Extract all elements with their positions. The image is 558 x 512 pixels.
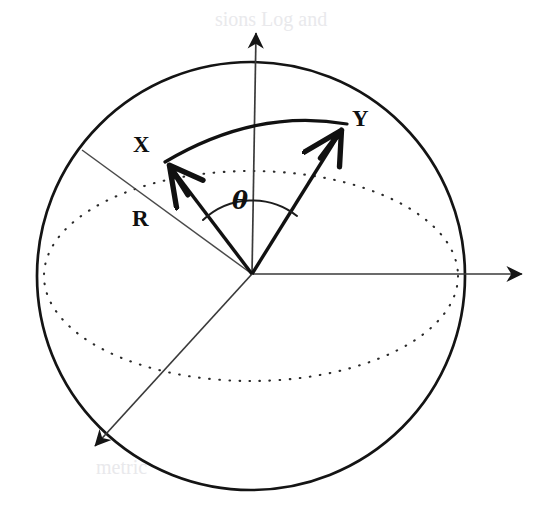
label-x-vector: X bbox=[133, 132, 150, 157]
label-y-vector: Y bbox=[352, 106, 369, 131]
label-radius: R bbox=[132, 206, 149, 231]
label-angle-theta: θ bbox=[232, 186, 248, 215]
figure-container: sions Log and metric X Y R θ bbox=[0, 0, 558, 512]
sphere-geodesic-diagram: sions Log and metric X Y R θ bbox=[0, 0, 558, 512]
axis-y-diagonal bbox=[95, 274, 252, 446]
vector-x-line bbox=[170, 166, 252, 274]
geodesic-arc bbox=[165, 120, 347, 162]
angle-arc-theta bbox=[203, 200, 297, 220]
radius-line bbox=[82, 150, 252, 274]
ghost-text-top: sions Log and bbox=[215, 8, 327, 31]
axis-z-vertical bbox=[252, 33, 256, 274]
